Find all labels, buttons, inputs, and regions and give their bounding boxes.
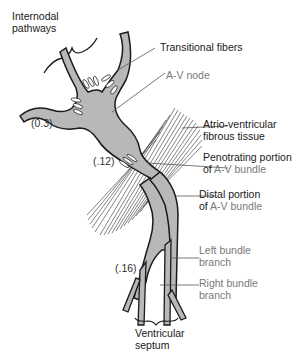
label-penetrating-portion: Penotrating portion of A-V bundle (203, 151, 292, 175)
label-fibrous-tissue: Atrio-ventricular fibrous tissue (203, 118, 277, 142)
timing-branches: (.16) (115, 262, 137, 274)
av-conduction-diagram: Internodal pathways Transitional fibers … (0, 0, 296, 351)
left-bundle-branch (164, 240, 171, 325)
label-left-bundle-branch: Left bundle branch (199, 244, 251, 268)
label-right-bundle-branch: Right bundle branch (199, 277, 258, 301)
label-internodal-pathways: Internodal pathways (12, 10, 59, 34)
timing-node: (0.3) (31, 117, 53, 129)
label-av-node: A-V node (166, 69, 210, 81)
timing-penetrating: (.12) (93, 155, 115, 167)
label-distal-portion: Distal portion of A-V bundle (199, 188, 262, 212)
label-ventricular-septum: Ventricular septum (135, 327, 185, 351)
label-transitional-fibers: Transitional fibers (160, 41, 242, 53)
right-bundle-branch (138, 262, 146, 325)
